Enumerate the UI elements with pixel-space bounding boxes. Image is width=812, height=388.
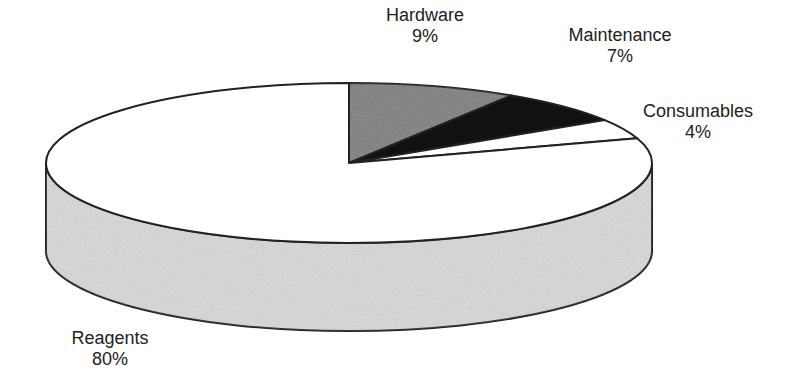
- label-reagents-pct: 80%: [60, 349, 160, 370]
- label-consumables-name: Consumables: [628, 101, 768, 122]
- label-maintenance-pct: 7%: [550, 46, 690, 67]
- label-hardware-pct: 9%: [370, 26, 480, 47]
- label-hardware: Hardware 9%: [370, 5, 480, 47]
- label-maintenance-name: Maintenance: [550, 25, 690, 46]
- pie-slices: [46, 83, 652, 331]
- label-consumables-pct: 4%: [628, 122, 768, 143]
- label-maintenance: Maintenance 7%: [550, 25, 690, 67]
- label-reagents-name: Reagents: [60, 328, 160, 349]
- label-reagents: Reagents 80%: [60, 328, 160, 370]
- label-consumables: Consumables 4%: [628, 101, 768, 143]
- label-hardware-name: Hardware: [370, 5, 480, 26]
